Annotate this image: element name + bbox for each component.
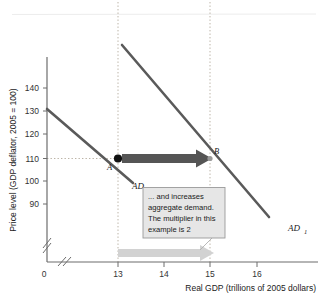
ad0-label: AD — [131, 181, 144, 191]
point-b-marker — [207, 156, 212, 161]
point-a-marker — [114, 154, 122, 162]
x-axis-title: Real GDP (trillions of 2005 dollars) — [185, 283, 316, 293]
y-tick-label-100: 100 — [25, 176, 39, 186]
y-tick-label-110: 110 — [25, 154, 39, 164]
multiplier-note-box: ... and increases aggregate demand. The … — [143, 188, 225, 239]
point-b-label: B — [214, 146, 219, 156]
ad1-label: AD — [287, 223, 300, 233]
light-arrow-shape — [118, 245, 214, 261]
y-tick-label-130: 130 — [25, 106, 39, 116]
dark-arrow-shape — [122, 150, 212, 168]
y-tick-label-140: 140 — [25, 83, 39, 93]
shift-arrow-dark — [122, 150, 212, 168]
x-tick-label-14: 14 — [159, 269, 169, 279]
ad1-sublabel: 1 — [304, 228, 307, 235]
x-tick-label-16: 16 — [252, 269, 262, 279]
x-tick-label-0: 0 — [42, 269, 47, 279]
x-tick-label-15: 15 — [205, 269, 215, 279]
y-axis-title: Price level (GDP deflator, 2005 = 100) — [8, 88, 18, 231]
ad0-curve — [47, 109, 133, 183]
note-line-3: The multiplier in this — [148, 214, 216, 223]
point-a-label: A — [106, 162, 113, 172]
note-line-4: example is 2 — [148, 225, 191, 234]
y-tick-label-120: 120 — [25, 129, 39, 139]
note-line-1: ... and increases — [148, 192, 204, 201]
ad-shift-chart: 140 130 120 110 100 90 0 13 14 15 16 Rea… — [0, 0, 327, 300]
note-line-2: aggregate demand. — [148, 203, 214, 212]
figure-canvas: 140 130 120 110 100 90 0 13 14 15 16 Rea… — [0, 0, 327, 300]
page-artifact-line — [12, 14, 316, 15]
ad1-label-group: AD 1 — [287, 223, 307, 235]
y-tick-label-90: 90 — [30, 199, 40, 209]
x-tick-label-13: 13 — [113, 269, 123, 279]
shift-arrow-light — [118, 245, 214, 261]
